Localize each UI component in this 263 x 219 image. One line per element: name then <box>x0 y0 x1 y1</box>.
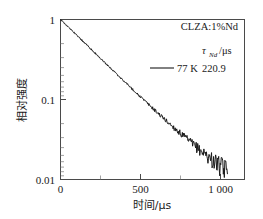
tau-header: τ Nd /μs <box>202 45 232 59</box>
y-tick-label-0p01: 0.01 <box>36 174 55 186</box>
legend-label-77k: 77 K <box>177 63 198 74</box>
x-tick-label-500: 500 <box>132 183 149 195</box>
x-tick-label-1000: 1 000 <box>208 183 233 195</box>
y-axis-label: 相对强度 <box>15 78 29 122</box>
tau-unit: /μs <box>219 45 232 56</box>
decay-curve-figure: 1 0.1 0.01 0 500 1 000 时间/μs 相对强度 CLZA:1… <box>0 0 263 219</box>
x-axis-ticks <box>61 174 221 180</box>
sample-annotation: CLZA:1%Nd <box>181 21 239 32</box>
tau-subscript: Nd <box>208 51 218 59</box>
y-axis-ticks <box>61 20 67 180</box>
y-tick-label-1: 1 <box>50 14 56 26</box>
chart-svg: 1 0.1 0.01 0 500 1 000 时间/μs 相对强度 CLZA:1… <box>0 0 263 219</box>
x-tick-label-0: 0 <box>58 183 64 195</box>
y-tick-label-0p1: 0.1 <box>41 94 55 106</box>
legend: 77 K 220.9 <box>150 63 226 74</box>
legend-value-lifetime: 220.9 <box>202 63 226 74</box>
x-axis-label: 时间/μs <box>133 199 172 212</box>
tau-symbol: τ <box>202 45 207 56</box>
decay-curve <box>61 20 228 178</box>
plot-frame <box>61 20 245 180</box>
